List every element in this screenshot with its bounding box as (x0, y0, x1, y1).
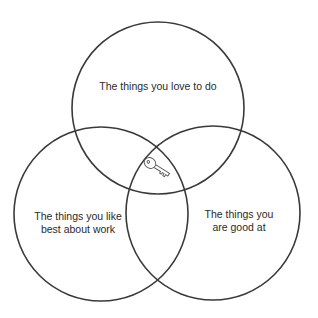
label-line: best about work (24, 223, 132, 236)
venn-circles (0, 0, 318, 318)
label-line: The things you like (24, 210, 132, 223)
circle-love-to-do (72, 22, 244, 194)
label-line: are good at (196, 221, 282, 234)
venn-diagram: The things you love to do The things you… (0, 0, 318, 318)
label-good-at: The things you are good at (196, 208, 282, 234)
label-love-to-do: The things you love to do (96, 80, 220, 93)
label-line: The things you love to do (96, 80, 220, 93)
label-line: The things you (196, 208, 282, 221)
label-like-about-work: The things you like best about work (24, 210, 132, 236)
key-icon (142, 155, 171, 179)
